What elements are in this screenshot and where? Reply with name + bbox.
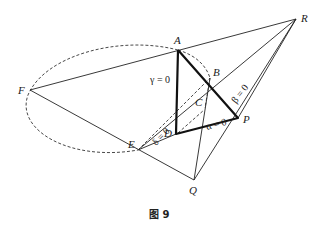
label-P: P: [242, 113, 250, 125]
label-Q: Q: [189, 184, 197, 196]
dashed-ellipse: [26, 45, 210, 153]
label-B: B: [213, 66, 220, 78]
label-C: C: [195, 96, 203, 108]
label-alpha: α = 0: [205, 116, 228, 132]
label-E: E: [127, 138, 135, 150]
label-F: F: [17, 84, 25, 96]
label-gamma: γ = 0: [149, 74, 170, 85]
line-P-R: [238, 19, 296, 118]
figure-caption: 图 9: [149, 209, 169, 220]
geometry-figure: A B C D E F P Q R γ = 0 β = 0 α = 0 δ = …: [0, 0, 324, 227]
label-A: A: [173, 34, 181, 46]
label-R: R: [300, 12, 308, 24]
line-Q-R: [194, 19, 296, 180]
